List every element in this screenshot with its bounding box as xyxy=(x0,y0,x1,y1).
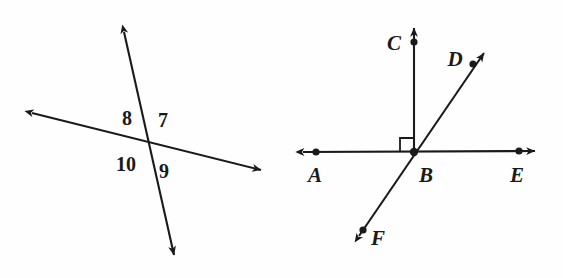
point-label-a: A xyxy=(306,163,322,187)
point-label-e: E xyxy=(509,163,524,187)
angle-label-9: 9 xyxy=(159,160,169,182)
point-label-f: F xyxy=(370,226,385,250)
point-label-d: D xyxy=(446,47,462,71)
left-diagram-group: 8 7 10 9 xyxy=(32,32,261,255)
point-dot-a xyxy=(312,148,319,155)
right-diagram-group: A B C D E F xyxy=(303,28,535,250)
point-label-c: C xyxy=(387,31,402,55)
left-shallow-line xyxy=(32,113,261,170)
geometry-figure-svg: 8 7 10 9 A B C D E F xyxy=(0,0,563,278)
point-dot-b xyxy=(410,148,418,156)
line-fd xyxy=(359,53,484,236)
angle-label-8: 8 xyxy=(122,107,132,129)
point-dot-c xyxy=(410,38,417,45)
point-dot-d xyxy=(469,60,476,67)
geometry-figure-canvas: 8 7 10 9 A B C D E F xyxy=(0,0,563,278)
point-dot-f xyxy=(359,226,366,233)
line-ae xyxy=(303,151,535,152)
left-steep-line xyxy=(124,32,174,255)
point-label-b: B xyxy=(418,163,433,187)
angle-label-10: 10 xyxy=(116,153,136,175)
angle-label-7: 7 xyxy=(158,109,168,131)
point-dot-e xyxy=(515,147,522,154)
